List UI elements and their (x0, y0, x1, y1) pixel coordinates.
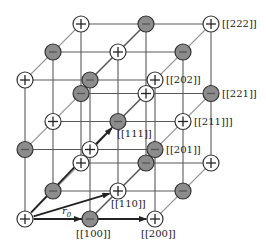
node-label-201: [[201]] (166, 145, 201, 155)
positive-ion (203, 155, 219, 171)
node-label-222: [[222]] (222, 19, 257, 29)
positive-ion (82, 142, 98, 158)
negative-ion (73, 86, 89, 102)
negative-ion (82, 72, 98, 88)
negative-ion (175, 44, 191, 60)
positive-ion (17, 72, 33, 88)
node-label-211: [[211]]] (194, 117, 233, 127)
negative-ion (138, 16, 154, 32)
negative-ion (147, 142, 163, 158)
lattice-ions (17, 16, 219, 227)
positive-ion (110, 44, 126, 60)
node-label-110: [[110]] (111, 199, 146, 209)
r0-subscript: 0 (67, 211, 71, 219)
negative-ion (203, 86, 219, 102)
negative-ion (82, 211, 98, 227)
positive-ion (17, 211, 33, 227)
negative-ion (175, 183, 191, 199)
positive-ion (147, 211, 163, 227)
crystal-lattice-diagram: [[222]][[202]][[221]][[211]]][[111]][[20… (0, 0, 266, 252)
node-label-111: [[111]] (117, 129, 152, 139)
negative-ion (138, 155, 154, 171)
positive-ion (203, 16, 219, 32)
node-label-202: [[202]] (166, 75, 201, 85)
positive-ion (73, 155, 89, 171)
r0-label: r0 (62, 206, 71, 220)
node-label-100: [[100]] (76, 229, 111, 239)
positive-ion (138, 86, 154, 102)
node-label-200: [[200]] (141, 229, 176, 239)
positive-ion (110, 183, 126, 199)
positive-ion (45, 114, 61, 130)
vector-111-arrow (31, 128, 112, 212)
positive-ion (147, 72, 163, 88)
negative-ion (45, 183, 61, 199)
negative-ion (17, 142, 33, 158)
positive-ion (73, 16, 89, 32)
positive-ion (175, 114, 191, 130)
negative-ion (45, 44, 61, 60)
node-label-221: [[221]] (222, 89, 257, 99)
